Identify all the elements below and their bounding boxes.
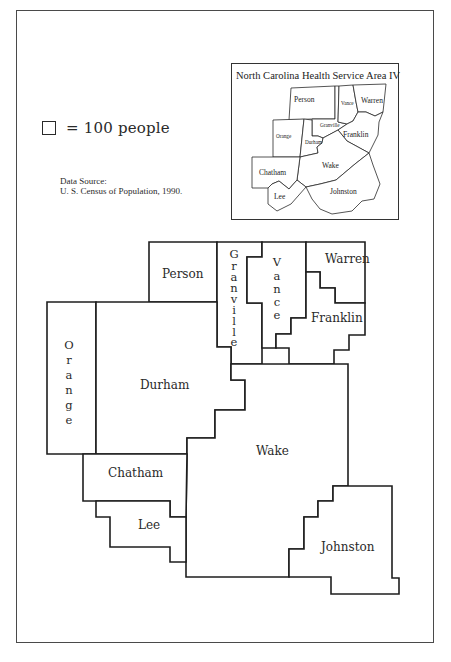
svg-text:e: e [274, 308, 281, 322]
label-johnston: Johnston [319, 540, 375, 554]
svg-text:e: e [231, 335, 238, 349]
label-franklin: Franklin [311, 311, 363, 325]
svg-text:a: a [274, 269, 281, 283]
label-chatham: Chatham [108, 466, 164, 480]
svg-text:g: g [65, 398, 73, 412]
cartogram: Person Warren Franklin Durham Wake Chath… [0, 0, 451, 662]
label-lee: Lee [138, 518, 160, 532]
svg-text:r: r [66, 353, 72, 367]
label-durham: Durham [140, 378, 190, 392]
svg-text:n: n [65, 383, 73, 397]
svg-text:O: O [64, 338, 73, 352]
svg-text:n: n [273, 282, 281, 296]
label-person: Person [162, 267, 204, 281]
svg-text:c: c [274, 295, 280, 309]
svg-text:V: V [272, 255, 282, 269]
svg-text:e: e [66, 413, 73, 427]
label-vance: V a n c e [272, 255, 282, 322]
label-wake: Wake [256, 444, 289, 458]
label-warren: Warren [325, 252, 370, 266]
label-orange: O r a n g e [64, 338, 73, 427]
svg-text:a: a [66, 368, 73, 382]
